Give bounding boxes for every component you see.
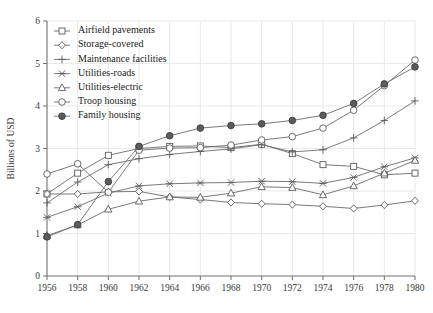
data-point-5-0 — [44, 171, 51, 178]
data-point-6-7 — [258, 121, 265, 128]
x-tick-label-1978: 1978 — [375, 283, 394, 293]
x-tick-label-1976: 1976 — [344, 283, 363, 293]
data-point-5-9 — [320, 125, 327, 132]
legend-item-3[interactable]: Utilities-roads — [54, 67, 135, 78]
data-point-4-10 — [350, 182, 357, 189]
x-tick-label-1970: 1970 — [252, 283, 271, 293]
legend-marker-circle-filled — [59, 113, 66, 120]
x-tick-label-1964: 1964 — [160, 283, 179, 293]
data-point-0-10 — [351, 163, 357, 169]
legend-item-6[interactable]: Family housing — [54, 109, 141, 120]
data-point-5-8 — [289, 133, 296, 140]
data-point-6-9 — [320, 112, 327, 119]
data-point-6-10 — [350, 100, 357, 107]
data-point-1-12 — [412, 197, 419, 204]
data-point-6-2 — [105, 178, 112, 185]
legend-marker-diamond — [59, 42, 66, 49]
data-point-5-6 — [228, 142, 235, 149]
legend-item-1[interactable]: Storage-covered — [54, 38, 144, 49]
data-point-1-9 — [320, 203, 327, 210]
data-point-0-2 — [105, 152, 111, 158]
y-axis-title: Billions of USD — [6, 117, 16, 179]
y-tick-label-1: 1 — [35, 229, 40, 239]
data-point-6-4 — [166, 132, 173, 139]
legend-marker-circle — [59, 99, 66, 106]
x-tick-label-1972: 1972 — [283, 283, 302, 293]
x-tick-label-1956: 1956 — [38, 283, 57, 293]
data-point-6-11 — [381, 81, 388, 88]
legend-item-0[interactable]: Airfield pavements — [54, 24, 155, 35]
legend-label-4: Utilities-electric — [78, 81, 144, 92]
chart-container: 0123456195619581960196219641966196819701… — [0, 0, 433, 313]
data-point-6-1 — [74, 221, 81, 228]
data-point-6-3 — [136, 143, 143, 150]
data-point-1-8 — [289, 201, 296, 208]
data-point-1-11 — [381, 201, 388, 208]
data-point-5-1 — [74, 161, 81, 168]
data-point-0-12 — [412, 170, 418, 176]
legend-label-5: Troop housing — [78, 95, 136, 106]
x-tick-label-1980: 1980 — [406, 283, 425, 293]
legend-item-5[interactable]: Troop housing — [54, 95, 136, 106]
legend-label-3: Utilities-roads — [78, 67, 135, 78]
data-point-5-4 — [166, 145, 173, 152]
x-tick-label-1966: 1966 — [191, 283, 210, 293]
data-point-6-12 — [412, 64, 419, 71]
data-point-6-8 — [289, 117, 296, 124]
data-point-5-10 — [350, 107, 357, 114]
y-tick-label-0: 0 — [35, 271, 40, 281]
y-tick-label-4: 4 — [35, 101, 40, 111]
data-point-1-10 — [350, 205, 357, 212]
legend-label-2: Maintenance facilities — [78, 53, 167, 64]
data-point-5-2 — [105, 189, 112, 196]
x-tick-label-1968: 1968 — [222, 283, 241, 293]
legend-item-4[interactable]: Utilities-electric — [54, 81, 144, 92]
data-point-1-6 — [228, 199, 235, 206]
legend-marker-triangle — [58, 84, 65, 91]
x-tick-label-1960: 1960 — [99, 283, 118, 293]
x-tick-label-1958: 1958 — [68, 283, 87, 293]
legend-label-0: Airfield pavements — [78, 24, 155, 35]
y-tick-label-6: 6 — [35, 16, 40, 26]
data-point-5-7 — [258, 137, 265, 144]
x-tick-label-1962: 1962 — [130, 283, 149, 293]
data-point-5-5 — [197, 144, 204, 151]
data-point-6-5 — [197, 125, 204, 132]
data-point-0-9 — [320, 162, 326, 168]
legend-label-1: Storage-covered — [78, 38, 144, 49]
y-tick-label-2: 2 — [35, 186, 40, 196]
line-chart: 0123456195619581960196219641966196819701… — [0, 0, 433, 313]
x-tick-label-1974: 1974 — [314, 283, 333, 293]
y-tick-label-5: 5 — [35, 59, 40, 69]
legend-label-6: Family housing — [78, 109, 141, 120]
data-point-0-1 — [75, 170, 81, 176]
y-tick-label-3: 3 — [35, 144, 40, 154]
data-point-6-6 — [228, 122, 235, 129]
legend-marker-square — [59, 28, 65, 34]
legend-item-2[interactable]: Maintenance facilities — [54, 53, 167, 64]
data-point-1-7 — [258, 200, 265, 207]
data-point-5-12 — [412, 57, 419, 64]
data-point-6-0 — [44, 234, 51, 241]
